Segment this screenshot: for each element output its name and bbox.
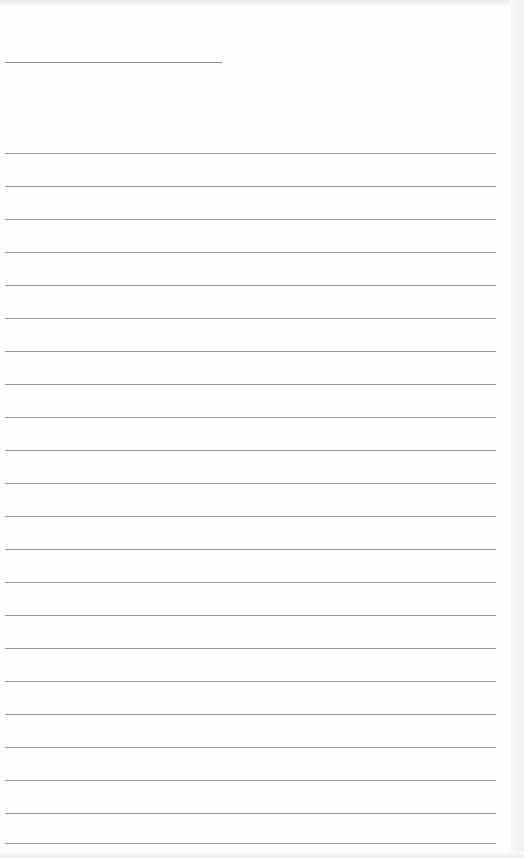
ruled-line: [5, 813, 496, 814]
ruled-line: [5, 285, 496, 286]
header-line: [5, 62, 222, 63]
ruled-line: [5, 186, 496, 187]
ruled-line: [5, 351, 496, 352]
ruled-line: [5, 582, 496, 583]
ruled-line: [5, 714, 496, 715]
ruled-line: [5, 843, 496, 844]
lined-paper-page: [0, 0, 524, 858]
ruled-line: [5, 747, 496, 748]
ruled-line: [5, 417, 496, 418]
ruled-line: [5, 384, 496, 385]
page-right-edge: [510, 0, 524, 858]
ruled-line: [5, 153, 496, 154]
ruled-line: [5, 681, 496, 682]
ruled-line: [5, 483, 496, 484]
ruled-line: [5, 219, 496, 220]
ruled-line: [5, 252, 496, 253]
ruled-line: [5, 615, 496, 616]
page-bottom-edge: [0, 852, 524, 858]
ruled-line: [5, 549, 496, 550]
ruled-line: [5, 450, 496, 451]
ruled-line: [5, 318, 496, 319]
ruled-line: [5, 780, 496, 781]
ruled-line: [5, 648, 496, 649]
page-top-edge: [0, 0, 524, 6]
ruled-line: [5, 516, 496, 517]
